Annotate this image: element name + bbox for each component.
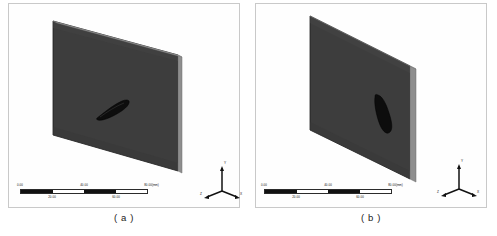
- scale-tick-20-b: 20.00: [292, 195, 300, 199]
- scale-tick-60-b: 60.00: [356, 195, 364, 199]
- slab-a-svg: [8, 3, 240, 183]
- scale-tick-20-a: 20.00: [48, 195, 56, 199]
- slab-a: [8, 3, 240, 183]
- caption-b: ( b ): [255, 212, 487, 223]
- axis-triad-icon-a: [200, 161, 244, 201]
- scale-unit-b: (mm): [396, 183, 403, 187]
- axis-label-x-a: X: [240, 192, 242, 196]
- scale-tick-40-a: 40.00: [80, 183, 88, 187]
- scale-seg-2-b: [297, 190, 329, 193]
- scale-bar-b: 0.00 40.00 80.00 (mm) 20.00 60.00: [264, 181, 404, 203]
- scale-seg-1-a: [21, 190, 53, 193]
- axis-triad-b: Y Z X: [437, 159, 481, 199]
- scale-tick-80-b: 80.00: [388, 183, 396, 187]
- scale-tick-0-b: 0.00: [261, 183, 267, 187]
- scale-seg-3-b: [328, 190, 360, 193]
- scale-bar-a: 0.00 40.00 80.00 (mm) 20.00 60.00: [20, 181, 160, 203]
- slab-b-svg: [255, 3, 487, 183]
- axis-label-y-b: Y: [461, 159, 463, 163]
- panel-b: 0.00 40.00 80.00 (mm) 20.00 60.00: [255, 3, 487, 208]
- slab-front-face-b: [310, 16, 410, 179]
- scale-tick-80-a: 80.00: [144, 183, 152, 187]
- slab-b: [255, 3, 487, 183]
- scale-track-b: [264, 189, 392, 194]
- caption-a: ( a ): [8, 212, 240, 223]
- scale-seg-2-a: [53, 190, 85, 193]
- axis-triad-a: Y Z X: [200, 161, 244, 201]
- axis-label-x-b: X: [477, 190, 479, 194]
- axis-triad-icon-b: [437, 159, 481, 199]
- scale-tick-60-a: 60.00: [112, 195, 120, 199]
- axis-label-z-a: Z: [200, 192, 202, 196]
- scale-seg-4-a: [116, 190, 148, 193]
- scale-track-a: [20, 189, 148, 194]
- scale-seg-4-b: [360, 190, 392, 193]
- scale-seg-3-a: [84, 190, 116, 193]
- scale-seg-1-b: [265, 190, 297, 193]
- scale-tick-40-b: 40.00: [324, 183, 332, 187]
- axis-label-z-b: Z: [437, 190, 439, 194]
- slab-side-face-a: [178, 55, 182, 173]
- axis-label-y-a: Y: [224, 161, 226, 165]
- slab-side-face-b: [410, 66, 416, 182]
- scale-tick-0-a: 0.00: [17, 183, 23, 187]
- figure-root: 0.00 40.00 80.00 (mm) 20.00 60.00: [0, 0, 497, 236]
- panel-a: 0.00 40.00 80.00 (mm) 20.00 60.00: [8, 3, 240, 208]
- scale-unit-a: (mm): [152, 183, 159, 187]
